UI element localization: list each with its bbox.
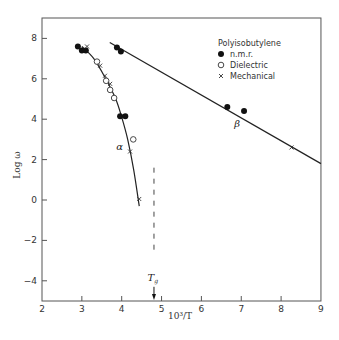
y-axis-ticks: −4−202468	[24, 33, 47, 285]
y-tick-label: 8	[31, 33, 37, 43]
x-tick-label: 3	[79, 304, 85, 314]
x-tick-label: 6	[199, 304, 205, 314]
x-tick-label: 4	[119, 304, 125, 314]
nmr-point	[117, 113, 123, 119]
plot-border	[42, 18, 321, 301]
legend: Polyisobutylenen.m.r.DielectricMechanica…	[218, 39, 281, 81]
nmr-point	[241, 108, 247, 114]
dielectric-point	[107, 87, 113, 93]
alpha-label: α	[116, 141, 123, 152]
x-tick-label: 8	[278, 304, 284, 314]
y-tick-label: 4	[31, 114, 37, 124]
dielectric-point	[130, 137, 136, 143]
tg-label: Tg	[148, 272, 159, 285]
mechanical-point	[219, 74, 223, 78]
legend-entry-label: n.m.r.	[230, 50, 253, 59]
y-tick-label: −4	[24, 276, 38, 286]
tg-subscript: g	[154, 277, 158, 285]
annotations: αβTg	[116, 118, 240, 300]
nmr-point	[224, 104, 230, 110]
legend-entry-label: Mechanical	[230, 72, 275, 81]
alpha-curve	[82, 46, 139, 206]
plot-frame	[42, 18, 321, 301]
dielectric-point	[111, 95, 117, 101]
nmr-point	[218, 51, 224, 57]
dielectric-point	[218, 62, 224, 68]
tg-arrow-icon	[152, 294, 156, 300]
fitted-curves	[82, 42, 321, 206]
nmr-point	[83, 48, 89, 54]
y-tick-label: −2	[24, 235, 37, 245]
y-tick-label: 0	[31, 195, 37, 205]
x-tick-label: 5	[159, 304, 165, 314]
x-tick-label: 7	[238, 304, 244, 314]
legend-entry-label: Dielectric	[230, 61, 268, 70]
y-tick-label: 2	[31, 155, 37, 165]
beta-curve	[110, 42, 321, 163]
y-axis-title: Log ω	[12, 151, 22, 178]
y-tick-label: 6	[31, 74, 37, 84]
legend-title: Polyisobutylene	[218, 39, 281, 48]
dielectric-point	[103, 78, 109, 84]
nmr-point	[118, 49, 124, 55]
beta-label: β	[233, 118, 240, 129]
x-tick-label: 9	[318, 304, 324, 314]
chart: 23456789 −4−202468 αβTg Polyisobutylenen…	[0, 0, 339, 340]
dielectric-point	[94, 59, 100, 65]
x-axis-title: 10³/T	[168, 311, 192, 321]
nmr-point	[122, 113, 128, 119]
x-tick-label: 2	[39, 304, 45, 314]
